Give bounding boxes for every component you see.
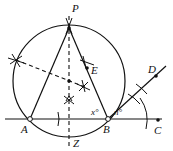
point-e [85,66,89,70]
point-center [67,79,71,83]
segment-pb [69,28,108,119]
label-e: E [90,64,98,76]
point-c [156,118,160,122]
label-a: A [20,123,28,135]
diagram-canvas: P E A B C D Z x° n° [0,0,173,151]
label-c: C [154,124,162,136]
label-b: B [103,123,110,135]
label-z: Z [73,137,80,149]
construction-mark-center-right [77,80,90,92]
point-p [67,26,71,30]
construction-mark-left [8,54,24,67]
label-p: P [71,2,79,14]
point-b [106,117,111,122]
geometry-diagram: P E A B C D Z x° n° [0,0,173,151]
point-a [28,117,33,122]
label-d: D [147,63,156,75]
angle-arc-c [140,98,147,129]
label-angle-n: n° [114,107,123,117]
label-angle-x: x° [90,107,99,117]
dashed-bisector-pb [16,60,85,87]
